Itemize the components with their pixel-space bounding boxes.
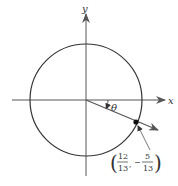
angle-arc — [106, 100, 108, 109]
unit-circle-diagram: x y θ ( 12 13 , − 5 13 ) — [0, 0, 178, 186]
svg-text:5: 5 — [145, 152, 150, 161]
y-axis-label: y — [81, 3, 88, 14]
terminal-ray — [86, 100, 158, 130]
svg-text:): ) — [154, 151, 162, 175]
x-axis-label: x — [168, 95, 174, 106]
svg-text:12: 12 — [118, 152, 128, 161]
svg-text:,: , — [129, 160, 132, 169]
svg-text:13: 13 — [118, 164, 128, 173]
terminal-point — [133, 119, 138, 124]
label-pointer — [138, 126, 150, 150]
point-coordinate-label: ( 12 13 , − 5 13 ) — [110, 151, 162, 175]
svg-text:(: ( — [110, 151, 118, 175]
svg-text:13: 13 — [143, 164, 153, 173]
angle-label: θ — [111, 102, 117, 113]
svg-text:−: − — [134, 158, 141, 167]
